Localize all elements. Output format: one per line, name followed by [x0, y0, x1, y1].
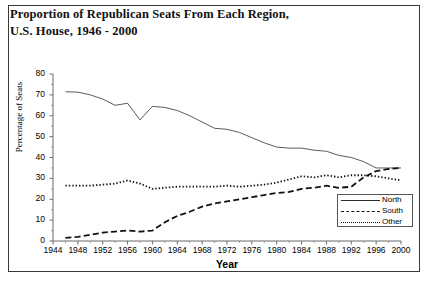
y-tick-label: 10	[23, 215, 45, 224]
plot-area: Percentage of Seats Year 010203040506070…	[0, 0, 428, 282]
legend-label-south: South	[382, 206, 403, 215]
legend-line-south-icon	[341, 211, 380, 212]
legend-line-other-icon	[341, 222, 380, 223]
y-tick-label: 80	[23, 69, 45, 78]
y-tick-label: 70	[23, 90, 45, 99]
legend-line-north-icon	[341, 200, 380, 201]
legend-item-south: South	[338, 207, 412, 217]
y-tick-label: 0	[23, 236, 45, 245]
x-axis-title: Year	[53, 258, 401, 270]
y-tick-label: 20	[23, 194, 45, 203]
y-tick-label: 30	[23, 173, 45, 182]
y-tick-label: 50	[23, 132, 45, 141]
legend-label-north: North	[382, 195, 402, 204]
legend-label-other: Other	[382, 217, 402, 226]
legend-item-other: Other	[338, 218, 412, 228]
y-tick-label: 40	[23, 153, 45, 162]
x-tick-label: 2000	[385, 246, 417, 255]
chart-figure: Proportion of Republican Seats From Each…	[0, 0, 428, 282]
plot-canvas	[0, 0, 428, 282]
chart-legend: North South Other	[337, 194, 413, 227]
legend-item-north: North	[338, 196, 412, 206]
y-tick-label: 60	[23, 111, 45, 120]
